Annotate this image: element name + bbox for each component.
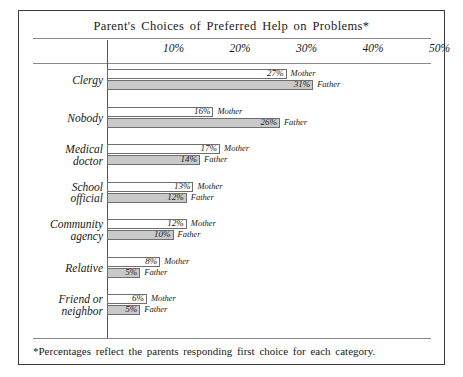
bar-series-label: Father bbox=[144, 267, 167, 278]
bar-row: 12%Father bbox=[107, 193, 446, 203]
bar-row: 17%Mother bbox=[107, 144, 446, 154]
category-label-line: neighbor bbox=[13, 306, 103, 318]
bar-value-label: 26% bbox=[107, 117, 277, 128]
bar-row: 6%Mother bbox=[107, 294, 446, 304]
bar-value-label: 13% bbox=[107, 181, 190, 192]
bar-value-label: 5% bbox=[107, 267, 137, 278]
bar-value-label: 8% bbox=[107, 256, 157, 267]
category-label: Medicaldoctor bbox=[13, 144, 103, 167]
category-label-line: Clergy bbox=[13, 75, 103, 87]
x-axis-tick-labels: 10%20%30%40%50% bbox=[19, 42, 444, 60]
bar-value-label: 16% bbox=[107, 106, 210, 117]
bar-series-label: Father bbox=[317, 79, 340, 90]
bar-row: 13%Mother bbox=[107, 182, 446, 192]
category-label-line: Medical bbox=[13, 144, 103, 156]
category-label-line: doctor bbox=[13, 156, 103, 168]
footer-rule bbox=[33, 338, 431, 339]
bar-series-label: Father bbox=[284, 117, 307, 128]
bar-series-label: Mother bbox=[191, 218, 216, 229]
bar-series-label: Mother bbox=[151, 293, 176, 304]
bar-value-label: 27% bbox=[107, 68, 284, 79]
bar-series-label: Father bbox=[144, 304, 167, 315]
category-label-line: agency bbox=[13, 231, 103, 243]
category-label: Relative bbox=[13, 263, 103, 275]
x-axis-tick-30: 30% bbox=[296, 42, 317, 54]
bar-series-label: Mother bbox=[197, 181, 222, 192]
header-rule-top bbox=[33, 38, 431, 39]
category-label: Clergy bbox=[13, 75, 103, 87]
bar-row: 27%Mother bbox=[107, 69, 446, 79]
chart-frame: Parent's Choices of Preferred Help on Pr… bbox=[18, 10, 445, 365]
bar-series-label: Father bbox=[191, 192, 214, 203]
bar-value-label: 6% bbox=[107, 293, 144, 304]
bar-value-label: 12% bbox=[107, 192, 184, 203]
bar-value-label: 17% bbox=[107, 143, 217, 154]
plot-area: Clergy27%Mother31%FatherNobody16%Mother2… bbox=[19, 69, 444, 335]
bar-row: 12%Mother bbox=[107, 219, 446, 229]
bar-value-label: 31% bbox=[107, 79, 310, 90]
chart-title: Parent's Choices of Preferred Help on Pr… bbox=[19, 19, 444, 34]
x-axis-tick-20: 20% bbox=[229, 42, 250, 54]
bar-row: 14%Father bbox=[107, 155, 446, 165]
category-label-line: Friend or bbox=[13, 294, 103, 306]
bar-value-label: 14% bbox=[107, 154, 197, 165]
x-axis-tick-10: 10% bbox=[163, 42, 184, 54]
bar-row: 16%Mother bbox=[107, 107, 446, 117]
bar-value-label: 12% bbox=[107, 218, 184, 229]
bar-row: 10%Father bbox=[107, 230, 446, 240]
bar-series-label: Father bbox=[178, 229, 201, 240]
chart-footnote: *Percentages reflect the parents respond… bbox=[33, 344, 433, 358]
bar-row: 26%Father bbox=[107, 118, 446, 128]
bar-series-label: Mother bbox=[217, 106, 242, 117]
category-label: Friend orneighbor bbox=[13, 294, 103, 317]
category-label-line: official bbox=[13, 193, 103, 205]
bar-value-label: 10% bbox=[107, 229, 171, 240]
x-axis-tick-50: 50% bbox=[429, 42, 450, 54]
category-label: Communityagency bbox=[13, 219, 103, 242]
category-label-line: Community bbox=[13, 219, 103, 231]
category-label-line: Relative bbox=[13, 263, 103, 275]
category-label: Nobody bbox=[13, 113, 103, 125]
header-rule-axis bbox=[33, 63, 431, 64]
category-label: Schoolofficial bbox=[13, 182, 103, 205]
bar-row: 31%Father bbox=[107, 80, 446, 90]
bar-row: 8%Mother bbox=[107, 257, 446, 267]
bar-series-label: Mother bbox=[164, 256, 189, 267]
bar-row: 5%Father bbox=[107, 268, 446, 278]
x-axis-tick-40: 40% bbox=[362, 42, 383, 54]
bar-row: 5%Father bbox=[107, 305, 446, 315]
bar-series-label: Father bbox=[204, 154, 227, 165]
bar-series-label: Mother bbox=[224, 143, 249, 154]
bar-series-label: Mother bbox=[291, 68, 316, 79]
category-label-line: Nobody bbox=[13, 113, 103, 125]
bar-value-label: 5% bbox=[107, 304, 137, 315]
